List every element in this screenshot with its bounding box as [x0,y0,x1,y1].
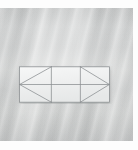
frame-svg [15,65,114,104]
diagram-canvas [0,8,133,141]
bottom-margin [0,141,138,150]
screenshot-viewport [0,0,138,150]
right-margin [133,0,138,150]
cross-braced-frame-diagram [15,65,114,104]
top-margin [0,0,138,8]
